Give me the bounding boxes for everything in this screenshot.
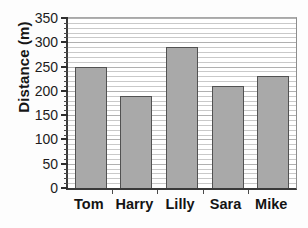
bar-series xyxy=(68,18,296,188)
x-tick xyxy=(248,190,249,194)
y-axis-title: Distance (m) xyxy=(13,0,35,147)
x-axis-labels: TomHarryLillySaraMike xyxy=(66,196,297,220)
x-axis-label: Sara xyxy=(210,196,241,212)
x-axis-label: Lilly xyxy=(165,196,194,212)
x-tick xyxy=(112,190,113,194)
y-tick-major xyxy=(61,90,68,92)
x-axis-label: Mike xyxy=(255,196,287,212)
x-tick xyxy=(157,190,158,194)
plot-area: 050100150200250300350 xyxy=(66,17,297,190)
y-tick-label: 0 xyxy=(50,180,58,196)
x-tick xyxy=(203,190,204,194)
y-tick-label: 100 xyxy=(35,131,58,147)
y-tick-major xyxy=(61,187,68,189)
bar xyxy=(120,96,152,188)
x-axis-label: Tom xyxy=(74,196,104,212)
y-tick-major xyxy=(61,163,68,165)
y-tick-label: 250 xyxy=(35,59,58,75)
bar xyxy=(257,76,289,188)
y-tick-label: 350 xyxy=(35,10,58,26)
y-tick-major xyxy=(61,114,68,116)
bar xyxy=(75,67,107,188)
bar xyxy=(166,47,198,188)
y-tick-label: 150 xyxy=(35,107,58,123)
y-tick-major xyxy=(61,66,68,68)
bar xyxy=(212,86,244,188)
y-tick-label: 50 xyxy=(42,156,58,172)
bar-chart-figure: Distance (m) 050100150200250300350 TomHa… xyxy=(0,0,308,228)
y-tick-major xyxy=(61,138,68,140)
y-tick-label: 200 xyxy=(35,83,58,99)
x-axis-label: Harry xyxy=(115,196,153,212)
y-tick-major xyxy=(61,17,68,19)
y-tick-major xyxy=(61,41,68,43)
y-tick-label: 300 xyxy=(35,34,58,50)
